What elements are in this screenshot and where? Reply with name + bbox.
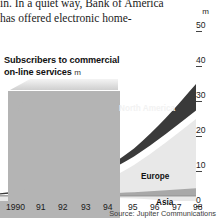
- y-tick-50: 50: [196, 20, 216, 32]
- y-tick-10: 10: [196, 160, 216, 172]
- y-tick-30-label: 30: [196, 90, 206, 100]
- y-tick-10-mark: [196, 171, 202, 172]
- y-tick-30: 30: [196, 90, 216, 102]
- chart-source: Source: Jupiter Communications: [109, 209, 216, 218]
- chart-title-line-2: on-line services: [4, 67, 72, 77]
- y-axis-unit: m: [202, 7, 209, 16]
- chart-figure: Subscribers to commercial on-line servic…: [0, 46, 218, 220]
- y-tick-50-label: 50: [196, 20, 206, 30]
- y-tick-40-label: 40: [196, 55, 206, 65]
- article-line-1: in. In a quiet way, Bank of America: [0, 0, 190, 11]
- x-tick-92: 92: [58, 202, 68, 212]
- x-tick-1990: 1990: [6, 202, 25, 212]
- x-tick-93: 93: [81, 202, 91, 212]
- stacked-area-svg: [0, 82, 196, 201]
- series-label-europe: Europe: [141, 172, 169, 181]
- article-body-text: in. In a quiet way, Bank of America has …: [0, 0, 190, 26]
- x-tick-91: 91: [36, 202, 46, 212]
- chart-title-line-1: Subscribers to commercial: [4, 55, 119, 65]
- y-tick-20: 20: [196, 125, 216, 137]
- series-label-north-america: North America: [119, 104, 175, 113]
- baseline-axis: [0, 195, 196, 196]
- article-line-2: has offered electronic home-: [0, 11, 190, 26]
- figure-screenshot: in. In a quiet way, Bank of America has …: [0, 0, 218, 220]
- y-tick-20-mark: [196, 136, 202, 137]
- chart-title-unit: m: [74, 68, 81, 77]
- chart-plot-area: [0, 82, 196, 201]
- y-tick-10-label: 10: [196, 160, 206, 170]
- y-tick-50-mark: [196, 31, 202, 32]
- y-tick-40-mark: [196, 66, 202, 67]
- y-tick-20-label: 20: [196, 125, 206, 135]
- y-tick-40: 40: [196, 55, 216, 67]
- y-axis: m 50 40 30 20 10 0: [194, 0, 218, 220]
- chart-title: Subscribers to commercial on-line servic…: [4, 55, 140, 78]
- y-tick-30-mark: [196, 101, 202, 102]
